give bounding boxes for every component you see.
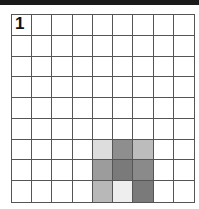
grid-cell-r8-c3[interactable] [52, 160, 72, 181]
grid-cell-r2-c8[interactable] [154, 36, 174, 57]
grid-cell-r4-c4[interactable] [73, 77, 93, 98]
grid-cell-r6-c9[interactable] [174, 119, 194, 140]
grid-cell-r6-c2[interactable] [32, 119, 52, 140]
grid-cell-r2-c7[interactable] [133, 36, 153, 57]
grid-cell-r5-c1[interactable] [12, 98, 32, 119]
grid-cell-r9-c3[interactable] [52, 181, 72, 202]
grid-cell-r9-c4[interactable] [73, 181, 93, 202]
grid-cell-r3-c4[interactable] [73, 57, 93, 78]
grid-cell-r8-c9[interactable] [174, 160, 194, 181]
grid-cell-r3-c8[interactable] [154, 57, 174, 78]
puzzle-number: 1 [15, 14, 24, 34]
grid-cell-r1-c2[interactable] [32, 15, 52, 36]
grid-cell-r9-c7[interactable] [133, 181, 153, 202]
grid-cell-r8-c1[interactable] [12, 160, 32, 181]
grid-cell-r2-c1[interactable] [12, 36, 32, 57]
grid-cell-r6-c7[interactable] [133, 119, 153, 140]
grid-cell-r3-c7[interactable] [133, 57, 153, 78]
grid-cell-r8-c5[interactable] [93, 160, 113, 181]
grid-cell-r5-c3[interactable] [52, 98, 72, 119]
grid-cell-r8-c4[interactable] [73, 160, 93, 181]
grid-cell-r9-c6[interactable] [113, 181, 133, 202]
grid-cell-r2-c2[interactable] [32, 36, 52, 57]
grid-cell-r7-c9[interactable] [174, 140, 194, 161]
grid-cell-r7-c8[interactable] [154, 140, 174, 161]
grid-cell-r2-c5[interactable] [93, 36, 113, 57]
grid-cell-r7-c5[interactable] [93, 140, 113, 161]
grid-cell-r6-c5[interactable] [93, 119, 113, 140]
grid-cell-r5-c4[interactable] [73, 98, 93, 119]
grid-cell-r9-c1[interactable] [12, 181, 32, 202]
grid-cell-r8-c2[interactable] [32, 160, 52, 181]
grid-cell-r4-c2[interactable] [32, 77, 52, 98]
grid-cell-r1-c9[interactable] [174, 15, 194, 36]
grid-cell-r4-c9[interactable] [174, 77, 194, 98]
grid-cell-r2-c6[interactable] [113, 36, 133, 57]
puzzle-grid: 1 [11, 14, 195, 203]
grid-cell-r7-c1[interactable] [12, 140, 32, 161]
grid-cell-r3-c9[interactable] [174, 57, 194, 78]
grid-cell-r2-c4[interactable] [73, 36, 93, 57]
grid-cell-r9-c2[interactable] [32, 181, 52, 202]
grid-cell-r6-c3[interactable] [52, 119, 72, 140]
grid-cell-r6-c1[interactable] [12, 119, 32, 140]
grid-cell-r9-c5[interactable] [93, 181, 113, 202]
grid-cell-r8-c8[interactable] [154, 160, 174, 181]
grid-cell-r9-c8[interactable] [154, 181, 174, 202]
grid-cell-r6-c8[interactable] [154, 119, 174, 140]
grid-cell-r1-c5[interactable] [93, 15, 113, 36]
grid-cell-r5-c2[interactable] [32, 98, 52, 119]
grid-cell-r1-c8[interactable] [154, 15, 174, 36]
grid-cell-r2-c9[interactable] [174, 36, 194, 57]
grid-cell-r7-c6[interactable] [113, 140, 133, 161]
grid-cell-r9-c9[interactable] [174, 181, 194, 202]
grid-cell-r3-c3[interactable] [52, 57, 72, 78]
grid-cell-r4-c1[interactable] [12, 77, 32, 98]
grid-cell-r4-c3[interactable] [52, 77, 72, 98]
grid-cell-r4-c8[interactable] [154, 77, 174, 98]
grid-cell-r8-c6[interactable] [113, 160, 133, 181]
grid-cell-r3-c1[interactable] [12, 57, 32, 78]
grid-cell-r2-c3[interactable] [52, 36, 72, 57]
grid-cell-r7-c2[interactable] [32, 140, 52, 161]
grid-cell-r3-c2[interactable] [32, 57, 52, 78]
grid-cell-r5-c7[interactable] [133, 98, 153, 119]
grid-cell-r7-c3[interactable] [52, 140, 72, 161]
grid-cell-r7-c7[interactable] [133, 140, 153, 161]
grid-cell-r4-c6[interactable] [113, 77, 133, 98]
grid-cell-r3-c5[interactable] [93, 57, 113, 78]
grid-cell-r5-c6[interactable] [113, 98, 133, 119]
top-bar [0, 0, 199, 5]
grid-cell-r6-c6[interactable] [113, 119, 133, 140]
grid-cell-r7-c4[interactable] [73, 140, 93, 161]
grid-cell-r3-c6[interactable] [113, 57, 133, 78]
grid-cell-r6-c4[interactable] [73, 119, 93, 140]
grid-cell-r5-c8[interactable] [154, 98, 174, 119]
grid-cell-r1-c3[interactable] [52, 15, 72, 36]
grid-cell-r5-c5[interactable] [93, 98, 113, 119]
grid-cell-r5-c9[interactable] [174, 98, 194, 119]
grid-cell-r4-c5[interactable] [93, 77, 113, 98]
grid-cell-r1-c6[interactable] [113, 15, 133, 36]
grid-cell-r1-c7[interactable] [133, 15, 153, 36]
grid-cell-r1-c1[interactable]: 1 [12, 15, 32, 36]
grid-cell-r8-c7[interactable] [133, 160, 153, 181]
grid-cell-r4-c7[interactable] [133, 77, 153, 98]
grid-cell-r1-c4[interactable] [73, 15, 93, 36]
